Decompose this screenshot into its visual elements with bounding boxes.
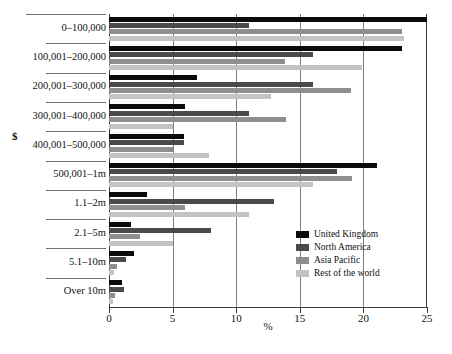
category-label-column: 0–100,000100,001–200,000200,001–300,0003… (0, 14, 106, 307)
bar (109, 299, 113, 304)
bar (109, 124, 173, 129)
bar (109, 65, 362, 70)
bar (109, 222, 131, 227)
legend-item[interactable]: Rest of the world (296, 267, 380, 280)
bar-group (109, 163, 427, 187)
legend-item[interactable]: United Kingdom (296, 228, 380, 241)
bar-chart: $ 0–100,000100,001–200,000200,001–300,00… (0, 0, 452, 354)
bar (109, 117, 286, 122)
legend-swatch-icon (296, 257, 309, 264)
legend-label: Asia Pacific (314, 254, 360, 267)
x-axis-line (109, 307, 428, 308)
category-separator (46, 131, 106, 132)
bar (109, 147, 173, 152)
category-separator (46, 278, 106, 279)
bar (109, 228, 211, 233)
bar (109, 212, 249, 217)
bar (109, 270, 114, 275)
bar (109, 23, 249, 28)
legend-label: Rest of the world (314, 267, 380, 280)
bar (109, 205, 185, 210)
bar (109, 153, 209, 158)
legend: United KingdomNorth AmericaAsia PacificR… (296, 228, 380, 280)
bar (109, 169, 337, 174)
bar-group (109, 104, 427, 128)
bar (109, 94, 271, 99)
x-axis-title: % (109, 320, 427, 332)
bar (109, 199, 274, 204)
legend-item[interactable]: North America (296, 241, 380, 254)
legend-label: North America (314, 241, 371, 254)
bar (109, 46, 402, 51)
bar-group (109, 134, 427, 158)
legend-swatch-icon (296, 244, 309, 251)
bar (109, 264, 117, 269)
category-label: 400,001–500,000 (33, 139, 107, 150)
category-label: 5.1–10m (69, 256, 106, 267)
legend-label: United Kingdom (314, 228, 378, 241)
bar (109, 104, 185, 109)
category-label: Over 10m (64, 285, 106, 296)
bar (109, 280, 122, 285)
bar (109, 134, 184, 139)
bar (109, 293, 115, 298)
bar (109, 82, 313, 87)
category-separator (46, 219, 106, 220)
bar (109, 88, 351, 93)
bar (109, 234, 140, 239)
category-separator (46, 102, 106, 103)
bar (109, 52, 313, 57)
bar-group (109, 46, 427, 70)
bar-group (109, 192, 427, 216)
category-label: 1.1–2m (74, 197, 106, 208)
legend-swatch-icon (296, 231, 309, 238)
legend-swatch-icon (296, 270, 309, 277)
bar (109, 192, 147, 197)
bar (109, 111, 249, 116)
bar-group (109, 17, 427, 41)
bar (109, 176, 352, 181)
category-separator (46, 43, 106, 44)
bar-group (109, 75, 427, 99)
legend-item[interactable]: Asia Pacific (296, 254, 380, 267)
bar (109, 75, 197, 80)
category-label: 200,001–300,000 (33, 80, 107, 91)
bar (109, 17, 427, 22)
category-label: 0–100,000 (61, 22, 106, 33)
bar (109, 251, 134, 256)
category-label: 300,001–400,000 (33, 110, 107, 121)
bar (109, 241, 173, 246)
bar (109, 29, 402, 34)
category-label: 100,001–200,000 (33, 51, 107, 62)
bar (109, 182, 313, 187)
bar (109, 36, 404, 41)
category-separator (46, 73, 106, 74)
bar (109, 257, 126, 262)
bar (109, 287, 124, 292)
bar (109, 163, 377, 168)
category-separator (46, 248, 106, 249)
category-label: 2.1–5m (74, 227, 106, 238)
category-label: 500,001–1m (53, 168, 106, 179)
category-separator (46, 161, 106, 162)
bar (109, 140, 184, 145)
bar (109, 59, 285, 64)
bar-group (109, 280, 427, 304)
category-separator (26, 14, 106, 15)
category-separator (46, 190, 106, 191)
